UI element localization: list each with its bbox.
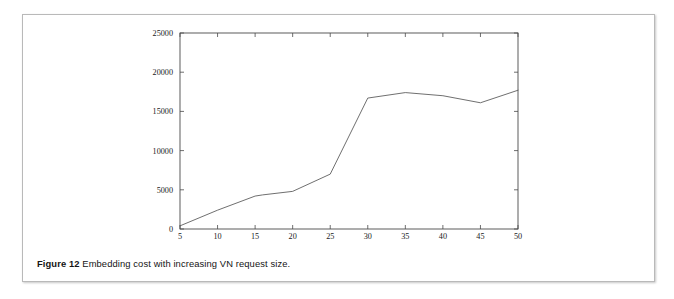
y-tick-label-5000: 5000 bbox=[157, 186, 173, 195]
x-tick-label-50: 50 bbox=[514, 232, 522, 240]
figure-caption-label: Figure 12 bbox=[37, 258, 80, 269]
y-tick-label-0: 0 bbox=[169, 225, 173, 234]
x-tick-label-15: 15 bbox=[251, 232, 259, 240]
chart-plot-area: 5101520253035404550050001000015000200002… bbox=[23, 15, 656, 240]
chart-axis-frame bbox=[180, 33, 518, 229]
x-tick-label-35: 35 bbox=[401, 232, 409, 240]
data-line-0 bbox=[180, 90, 518, 226]
y-tick-label-15000: 15000 bbox=[153, 107, 173, 116]
x-tick-label-25: 25 bbox=[326, 232, 334, 240]
x-tick-label-10: 10 bbox=[213, 232, 221, 240]
figure-card: 5101520253035404550050001000015000200002… bbox=[22, 14, 655, 282]
y-tick-label-20000: 20000 bbox=[153, 68, 173, 77]
figure-caption: Figure 12 Embedding cost with increasing… bbox=[37, 258, 637, 269]
x-tick-label-45: 45 bbox=[476, 232, 484, 240]
x-tick-label-30: 30 bbox=[364, 232, 372, 240]
figure-caption-text: Embedding cost with increasing VN reques… bbox=[80, 258, 291, 269]
x-tick-label-20: 20 bbox=[289, 232, 297, 240]
y-tick-label-25000: 25000 bbox=[153, 29, 173, 38]
x-tick-label-40: 40 bbox=[439, 232, 447, 240]
line-chart-svg: 5101520253035404550050001000015000200002… bbox=[23, 15, 656, 240]
x-tick-label-5: 5 bbox=[178, 232, 182, 240]
y-tick-label-10000: 10000 bbox=[153, 147, 173, 156]
